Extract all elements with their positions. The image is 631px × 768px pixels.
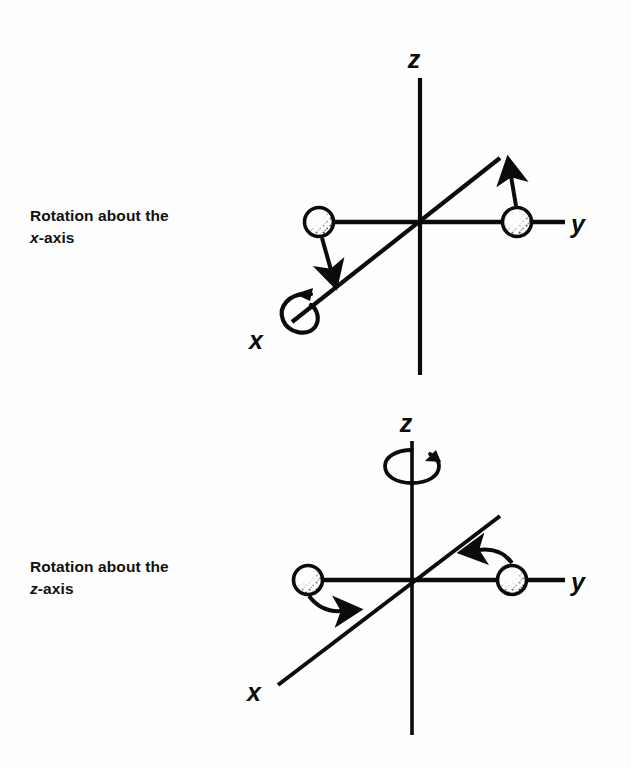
panel-rotation-about-x: z y x [247,45,586,375]
atom-left [294,566,323,595]
rotation-diagrams-svg: z y x [0,0,631,768]
x-axis-label: x [247,326,264,354]
figure-canvas: Rotation about the x-axis Rotation about… [0,0,631,768]
displacement-arrow-up-icon [511,176,516,206]
displacement-arrow-down-icon [322,238,331,270]
atom-left [305,208,334,237]
y-axis-label: y [569,210,586,238]
z-axis-label: z [407,45,421,73]
atom-right [503,208,532,237]
displacement-arrow-left-icon [478,550,512,563]
z-axis-label: z [399,409,413,437]
rotation-curl-x-icon [282,288,318,333]
x-axis-label: x [245,678,262,706]
atom-right [498,566,527,595]
displacement-arrow-right-icon [309,596,342,611]
y-axis-label: y [569,568,586,596]
panel-rotation-about-z: z y x [245,409,586,735]
